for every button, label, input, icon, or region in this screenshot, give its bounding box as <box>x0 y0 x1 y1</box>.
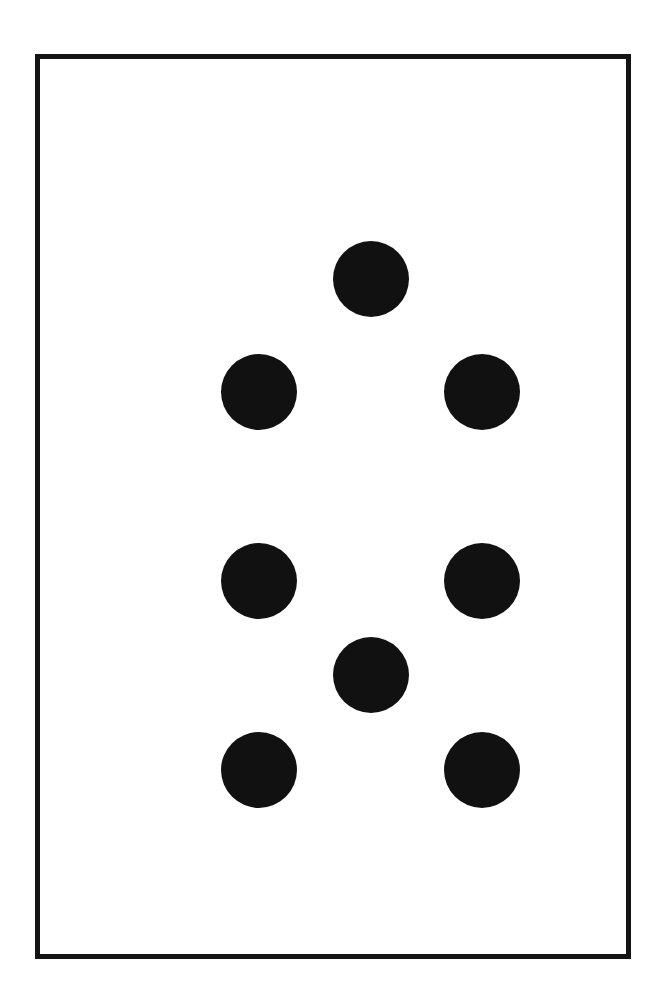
pip-dot-icon <box>333 637 409 713</box>
pip-dot-icon <box>221 543 297 619</box>
playing-card-outline <box>35 54 631 959</box>
pip-dot-icon <box>221 354 297 430</box>
pip-dot-icon <box>444 543 520 619</box>
pip-dot-icon <box>444 354 520 430</box>
pip-dot-icon <box>444 732 520 808</box>
pip-dot-icon <box>333 241 409 317</box>
pip-dot-icon <box>221 732 297 808</box>
